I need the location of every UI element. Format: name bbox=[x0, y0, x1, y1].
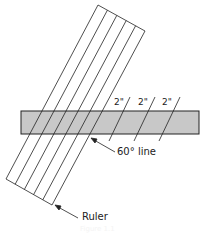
leader-arrows bbox=[55, 138, 115, 218]
ruler-diagram bbox=[0, 0, 206, 235]
dimension-label-3: 2" bbox=[162, 98, 172, 107]
ruler-label: Ruler bbox=[82, 212, 108, 222]
dimension-label-1: 2" bbox=[114, 98, 124, 107]
sixty-degree-line-label: 60° line bbox=[117, 147, 156, 157]
figure-caption: Figure 1.1 bbox=[80, 226, 115, 233]
ruler bbox=[6, 5, 145, 205]
dimension-label-2: 2" bbox=[138, 98, 148, 107]
